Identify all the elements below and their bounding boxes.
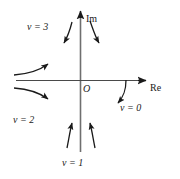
flow-arrow-upper-left [64, 22, 72, 43]
annotation-v1: v = 1 [62, 158, 83, 168]
complex-plane-flow-diagram: Im Re O v = 3 v = 2 v = 1 v = 0 [0, 0, 180, 179]
annotation-v3: v = 3 [27, 22, 48, 32]
flow-arrow-right-lower [118, 80, 126, 103]
flow-arrow-upper-right [90, 21, 99, 43]
flow-arrow-bottom-left [67, 123, 72, 148]
origin-label: O [83, 84, 90, 94]
annotation-v2: v = 2 [13, 115, 34, 125]
real-axis-label: Re [150, 83, 161, 93]
flow-arrow-left-lower [14, 88, 48, 99]
flow-arrow-left-upper [14, 64, 48, 75]
annotation-v0: v = 0 [120, 103, 141, 113]
flow-arrow-bottom-right [90, 123, 95, 148]
imaginary-axis-label: Im [86, 14, 97, 24]
